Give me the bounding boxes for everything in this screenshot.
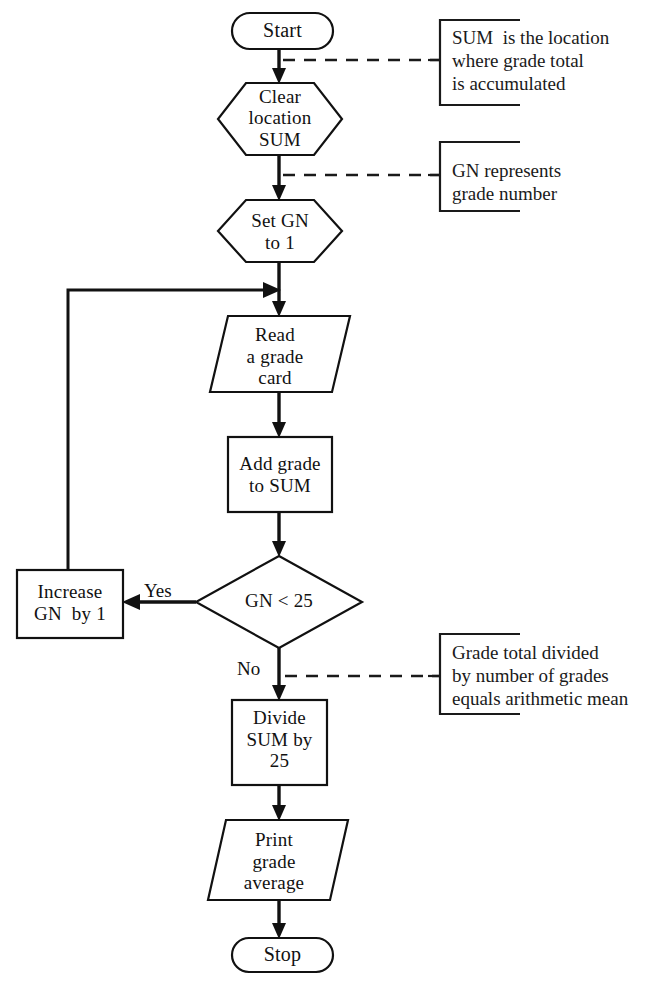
shape-clear-sum-hexagon (218, 83, 342, 155)
shape-set-gn-hexagon (218, 200, 342, 262)
arrowhead-read-to-add (272, 422, 286, 438)
shape-read-card-parallelogram (210, 316, 350, 392)
arrowhead-print-to-stop (272, 923, 286, 939)
arrowhead-add-to-decision (272, 541, 286, 557)
shape-add-grade-process (228, 437, 332, 512)
bracket-note-mean (440, 634, 520, 714)
shape-increase-gn-process (17, 570, 123, 638)
arrowhead-start-to-clear (272, 68, 286, 84)
shape-decision-diamond (196, 556, 362, 648)
bracket-note-sum (440, 20, 520, 105)
arrowhead-decision-no (272, 685, 286, 701)
arrowhead-decision-yes (122, 594, 140, 610)
arrowhead-divide-to-print (272, 805, 286, 821)
flowchart-graphics (0, 0, 658, 1000)
flowchart-canvas: Start Clear location SUM Set GN to 1 Rea… (0, 0, 658, 1000)
arrowhead-clear-to-setgn (272, 185, 286, 201)
shape-print-average-parallelogram (208, 820, 348, 900)
bracket-note-gn (440, 142, 520, 211)
shape-stop-terminator (232, 938, 333, 972)
arrowhead-setgn-to-read (272, 301, 286, 317)
shape-start-terminator (232, 13, 333, 49)
shape-divide-sum-process (232, 700, 327, 785)
